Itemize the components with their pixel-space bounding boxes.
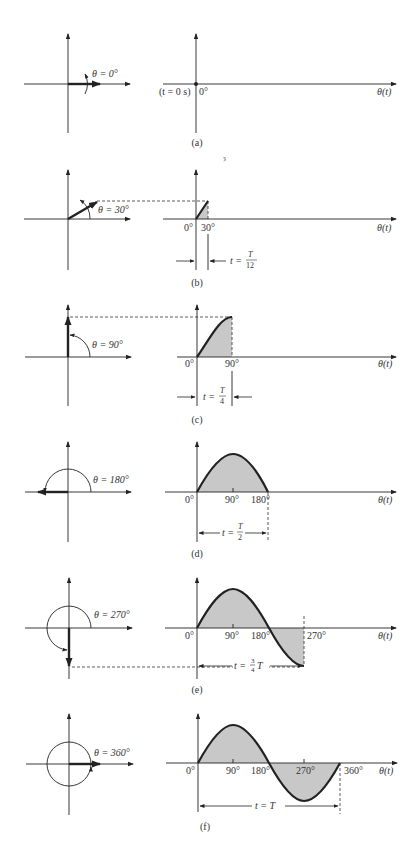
time-label: t = T 4	[203, 386, 226, 406]
caption-d: (d)	[191, 548, 203, 560]
tick-90: 90°	[225, 494, 239, 505]
time-label: t = T 2	[222, 522, 243, 542]
tick-270: 270°	[307, 630, 326, 641]
caption-b: (b)	[191, 277, 203, 289]
waveform-plot-d: 0° 90° 180° θ(t) t = T 2	[165, 442, 396, 542]
waveform-plot-c: 0° 90° θ(t) t = T 4	[177, 305, 396, 406]
svg-text:2: 2	[238, 533, 242, 542]
tick-0: 0°	[185, 630, 194, 641]
tick-90: 90°	[225, 630, 239, 641]
time-label: (t = 0 s)	[159, 86, 190, 98]
tick-360: 360°	[344, 765, 363, 776]
panel-f: θ = 360° 0° 90° 180° 270° 360° θ(t) t = …	[26, 714, 397, 833]
waveform-plot-a: (t = 0 s) 0° θ(t)	[159, 34, 396, 133]
axis-label: θ(t)	[377, 86, 392, 98]
svg-text:12: 12	[246, 261, 254, 270]
angle-label: θ = 30°	[98, 204, 129, 215]
time-label: t = 3 4 T	[233, 657, 269, 674]
caption-a: (a)	[191, 137, 202, 149]
svg-text:t =: t =	[203, 391, 215, 402]
svg-text:t =: t =	[234, 660, 246, 671]
axis-label: θ(t)	[377, 222, 392, 234]
axis-label: θ(t)	[378, 494, 393, 506]
phasor-diagram-f: θ = 360°	[26, 714, 133, 815]
origin-point	[194, 82, 198, 86]
svg-text:4: 4	[251, 666, 255, 674]
tick-0: 0°	[184, 222, 193, 233]
time-label: t = T	[255, 800, 277, 811]
angle-label: θ = 0°	[92, 68, 118, 79]
area-shade-negative	[269, 628, 304, 666]
waveform-plot-f: 0° 90° 180° 270° 360° θ(t) t = T	[166, 714, 397, 814]
phasor-diagram-b: θ = 30°	[24, 170, 208, 270]
svg-text:T: T	[220, 386, 225, 395]
tick-180: 180°	[251, 765, 270, 776]
tick-0: 0°	[186, 765, 195, 776]
caption-e: (e)	[191, 684, 202, 696]
svg-text:t =: t =	[230, 255, 242, 266]
axis-label: θ(t)	[379, 765, 394, 777]
svg-text:3: 3	[251, 657, 255, 665]
panel-b: θ = 30° 0° 30° θ(t) t = T 12 (b)	[24, 170, 396, 289]
panel-c: θ = 90° 0° 90° θ(t) t = T 4 (c)	[25, 305, 396, 426]
stray-mark: ȝ	[223, 154, 226, 162]
tick-270: 270°	[296, 765, 315, 776]
tick-0: 0°	[199, 86, 208, 97]
rotation-arrow-icon	[70, 335, 90, 357]
svg-text:T: T	[248, 250, 253, 259]
angle-label: θ = 90°	[92, 339, 123, 350]
axis-label: θ(t)	[378, 358, 393, 370]
angle-label: θ = 360°	[94, 747, 130, 758]
tick-180: 180°	[251, 494, 270, 505]
svg-text:t =: t =	[222, 527, 234, 538]
phasor-diagram-a: θ = 0°	[24, 34, 130, 133]
rotating-vector	[68, 202, 97, 219]
waveform-plot-b: 0° 30° θ(t) t = T 12	[163, 170, 396, 270]
angle-label: θ = 270°	[94, 609, 130, 620]
caption-f: (f)	[200, 821, 210, 833]
sine-generation-figure: θ = 0° (t = 0 s) 0° θ(t) (a) ȝ θ = 30°	[0, 0, 412, 846]
caption-c: (c)	[191, 414, 202, 426]
tick-30: 30°	[201, 222, 215, 233]
panel-e: θ = 270° 0° 90° 180° 270° θ(t) t = 3 4	[25, 578, 396, 696]
panel-a: θ = 0° (t = 0 s) 0° θ(t) (a)	[24, 34, 396, 149]
waveform-plot-e: 0° 90° 180° 270° θ(t) t = 3 4 T	[165, 578, 396, 679]
tick-90: 90°	[226, 765, 240, 776]
phasor-diagram-d: θ = 180°	[25, 442, 131, 542]
axis-label: θ(t)	[378, 630, 393, 642]
tick-180: 180°	[251, 630, 270, 641]
tick-0: 0°	[185, 494, 194, 505]
tick-90: 90°	[225, 358, 239, 369]
time-label: t = T 12	[230, 250, 257, 270]
svg-text:4: 4	[220, 397, 224, 406]
panel-d: θ = 180° 0° 90° 180° θ(t) t = T 2 (d)	[25, 442, 396, 560]
svg-text:T: T	[238, 522, 243, 531]
angle-label: θ = 180°	[93, 474, 129, 485]
tick-0: 0°	[185, 358, 194, 369]
